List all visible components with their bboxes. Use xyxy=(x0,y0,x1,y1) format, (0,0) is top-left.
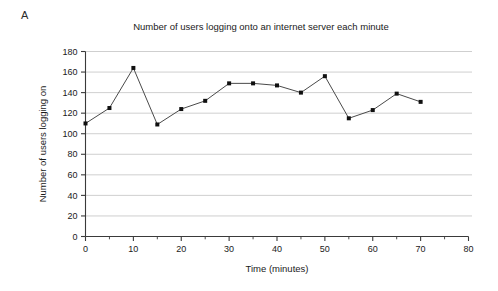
x-tick-label: 70 xyxy=(416,244,426,254)
x-tick-label: 40 xyxy=(272,244,282,254)
y-ticks-group xyxy=(81,52,86,237)
data-series-line xyxy=(86,68,421,125)
x-tick-label: 80 xyxy=(463,244,473,254)
y-tick-label: 160 xyxy=(62,67,77,77)
x-tick-label: 10 xyxy=(128,244,138,254)
x-tick-label: 60 xyxy=(368,244,378,254)
y-tick-label: 20 xyxy=(67,211,77,221)
line-chart-svg: 01020304050607080 0204060801001201401601… xyxy=(0,0,498,291)
x-tick-label: 20 xyxy=(176,244,186,254)
x-tick-label: 0 xyxy=(83,244,88,254)
data-point-marker xyxy=(251,81,255,85)
y-tick-label: 60 xyxy=(67,170,77,180)
data-point-marker xyxy=(131,66,135,70)
data-point-marker xyxy=(155,122,159,126)
data-point-marker xyxy=(107,106,111,110)
data-point-marker xyxy=(419,100,423,104)
x-tick-label: 50 xyxy=(320,244,330,254)
data-point-marker xyxy=(323,74,327,78)
x-major-ticks-group xyxy=(86,237,469,242)
data-point-marker xyxy=(179,107,183,111)
data-point-marker xyxy=(371,108,375,112)
data-point-marker xyxy=(299,91,303,95)
data-point-marker xyxy=(84,121,88,125)
plot-area: 01020304050607080 0204060801001201401601… xyxy=(0,0,498,291)
y-tick-label: 120 xyxy=(62,108,77,118)
gridlines-group xyxy=(86,52,473,216)
figure-container: A Number of users logging onto an intern… xyxy=(0,0,498,291)
y-axis-title: Number of users logging on xyxy=(37,86,48,203)
x-tick-labels-group: 01020304050607080 xyxy=(83,244,474,254)
y-tick-label: 100 xyxy=(62,129,77,139)
y-tick-label: 180 xyxy=(62,47,77,57)
data-point-marker xyxy=(227,81,231,85)
x-tick-label: 30 xyxy=(224,244,234,254)
y-tick-label: 40 xyxy=(67,191,77,201)
data-point-marker xyxy=(275,83,279,87)
y-tick-label: 80 xyxy=(67,149,77,159)
y-tick-label: 140 xyxy=(62,88,77,98)
data-point-marker xyxy=(395,92,399,96)
data-point-marker xyxy=(347,116,351,120)
data-markers-group xyxy=(84,66,423,127)
y-tick-label: 0 xyxy=(72,232,77,242)
x-axis-title: Time (minutes) xyxy=(246,263,309,274)
y-tick-labels-group: 020406080100120140160180 xyxy=(62,47,77,242)
data-point-marker xyxy=(203,99,207,103)
